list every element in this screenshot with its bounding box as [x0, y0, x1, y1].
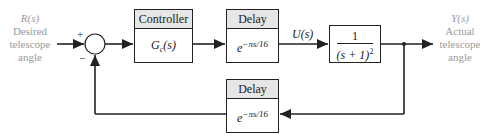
- delay-feedback-transfer-function: e−πs/16: [227, 99, 278, 126]
- delay-feedback-block: Delay e−πs/16: [226, 79, 279, 133]
- delay-feedback-header: Delay: [227, 80, 278, 99]
- plant-transfer-function: 1 (s + 1)2: [330, 26, 380, 63]
- delay-forward-header: Delay: [227, 10, 278, 29]
- output-line2: telescope: [434, 38, 486, 51]
- input-line3: angle: [4, 51, 56, 64]
- u-signal-label: U(s): [292, 27, 313, 42]
- delay-forward-block: Delay e−πs/16: [226, 9, 279, 63]
- input-line1: Desired: [4, 25, 56, 38]
- controller-header: Controller: [135, 10, 192, 29]
- controller-block: Controller Gc(s): [134, 9, 193, 63]
- output-line3: angle: [434, 51, 486, 64]
- pickoff-point: [402, 42, 406, 46]
- output-label: Y(s) Actual telescope angle: [434, 12, 486, 64]
- input-label: R(s) Desired telescope angle: [4, 12, 56, 64]
- delay-forward-transfer-function: e−πs/16: [227, 29, 278, 56]
- input-line2: telescope: [4, 38, 56, 51]
- output-symbol: Y(s): [434, 12, 486, 25]
- controller-transfer-function: Gc(s): [135, 29, 192, 54]
- plus-sign: +: [77, 28, 83, 40]
- plant-block: 1 (s + 1)2: [329, 25, 381, 63]
- input-symbol: R(s): [4, 12, 56, 25]
- output-line1: Actual: [434, 25, 486, 38]
- minus-sign: −: [79, 52, 85, 64]
